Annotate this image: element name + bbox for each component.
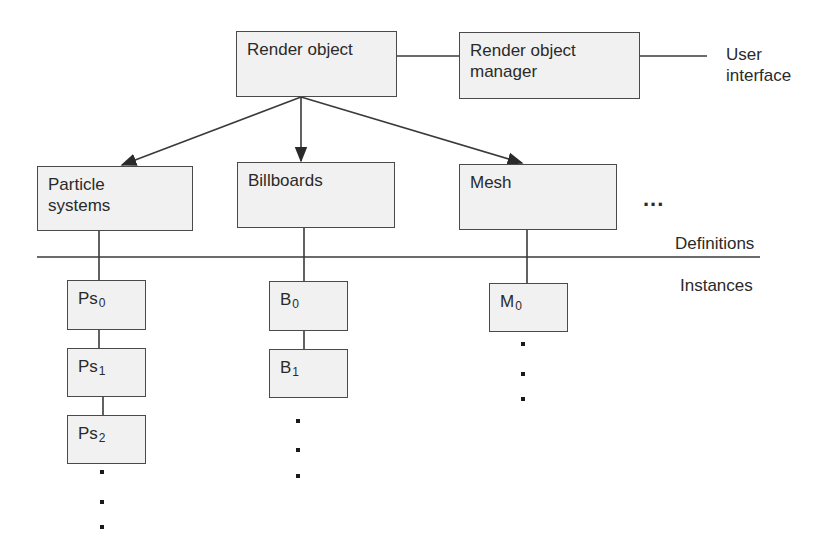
render-object-manager-label: Render object manager xyxy=(470,41,576,81)
billboard-instance-1: B1 xyxy=(269,349,348,398)
instance-index: 1 xyxy=(292,365,299,379)
user-interface-label: User interface xyxy=(726,44,816,86)
instance-index: 2 xyxy=(99,431,106,445)
particle-instance-1: Ps1 xyxy=(67,348,146,397)
mesh-box: Mesh xyxy=(459,164,617,230)
instance-name: Ps xyxy=(78,357,98,376)
instance-index: 0 xyxy=(99,296,106,310)
particle-instance-0: Ps0 xyxy=(67,280,146,330)
particle-instance-2: Ps2 xyxy=(67,415,146,464)
more-definitions-ellipsis: ... xyxy=(643,186,664,212)
continuation-dot xyxy=(521,372,525,376)
definitions-section-label: Definitions xyxy=(675,233,754,254)
continuation-dot xyxy=(100,500,104,504)
instance-name: B xyxy=(280,358,291,377)
continuation-dot xyxy=(100,470,104,474)
billboards-box: Billboards xyxy=(237,162,395,228)
instance-name: Ps xyxy=(78,289,98,308)
continuation-dot xyxy=(521,397,525,401)
instance-index: 0 xyxy=(292,297,299,311)
instance-name: B xyxy=(280,290,291,309)
continuation-dot xyxy=(296,448,300,452)
instances-section-label: Instances xyxy=(680,275,753,296)
instance-name: M xyxy=(500,292,514,311)
mesh-label: Mesh xyxy=(470,173,512,192)
render-object-manager-box: Render object manager xyxy=(459,32,640,99)
continuation-dot xyxy=(296,419,300,423)
continuation-dot xyxy=(296,474,300,478)
particle-systems-box: Particle systems xyxy=(37,166,193,231)
mesh-instance-0: M0 xyxy=(489,283,568,332)
continuation-dot xyxy=(521,342,525,346)
render-object-label: Render object xyxy=(247,40,353,59)
render-object-box: Render object xyxy=(236,31,397,97)
continuation-dot xyxy=(100,525,104,529)
billboards-label: Billboards xyxy=(248,171,323,190)
instance-index: 1 xyxy=(99,364,106,378)
particle-systems-label: Particle systems xyxy=(48,175,110,215)
instance-name: Ps xyxy=(78,424,98,443)
instance-index: 0 xyxy=(515,299,522,313)
billboard-instance-0: B0 xyxy=(269,281,348,331)
